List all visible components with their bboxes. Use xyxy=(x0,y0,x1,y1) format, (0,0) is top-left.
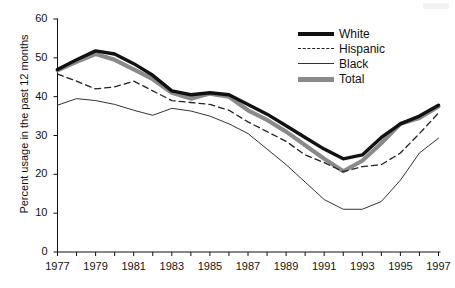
chart-legend: White Hispanic Black Total xyxy=(296,26,426,86)
legend-label-hispanic: Hispanic xyxy=(336,42,385,56)
legend-swatch-hispanic-icon xyxy=(296,43,336,55)
legend-item-white: White xyxy=(296,26,426,41)
legend-label-white: White xyxy=(336,27,370,41)
legend-item-total: Total xyxy=(296,71,426,86)
chart-figure: Percent usage in the past 12 months 0102… xyxy=(0,0,455,288)
legend-label-total: Total xyxy=(336,72,364,86)
series-line-black xyxy=(58,99,439,210)
legend-item-hispanic: Hispanic xyxy=(296,41,426,56)
legend-label-black: Black xyxy=(336,57,368,71)
scan-artifact xyxy=(423,3,449,9)
legend-swatch-total-icon xyxy=(296,73,336,85)
legend-swatch-white-icon xyxy=(296,28,336,40)
series-line-hispanic xyxy=(58,74,439,171)
legend-item-black: Black xyxy=(296,56,426,71)
legend-swatch-black-icon xyxy=(296,58,336,70)
